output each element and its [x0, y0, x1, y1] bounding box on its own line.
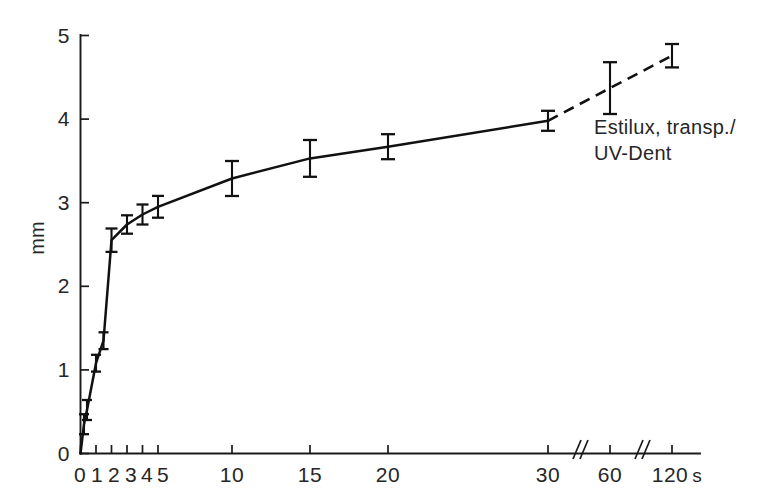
error-bar-1.5s — [99, 332, 109, 349]
x-tick-labels: 0 1 2 3 4 5 10 15 20 30 60 120 s — [74, 463, 702, 486]
y-tick-label-0: 0 — [58, 442, 70, 465]
series-annotation-line2: UV-Dent — [594, 142, 672, 164]
y-tick-label-1: 1 — [58, 358, 70, 381]
line-chart: 0 1 2 3 4 5 mm — [0, 0, 766, 504]
y-tick-label-4: 4 — [58, 107, 70, 130]
y-tick-labels: 0 1 2 3 4 5 — [58, 24, 70, 465]
axis-group — [81, 35, 701, 454]
x-tick-label-2: 2 — [108, 463, 120, 486]
error-bar-5s — [152, 196, 164, 218]
error-bar-3s — [121, 215, 133, 233]
x-tick-label-20: 20 — [376, 463, 400, 486]
axis-break-60-120 — [635, 440, 650, 459]
error-bar-60s — [603, 62, 617, 114]
x-tick-label-15: 15 — [298, 463, 322, 486]
x-tick-label-4: 4 — [141, 463, 153, 486]
y-tick-label-3: 3 — [58, 191, 70, 214]
y-axis-title: mm — [26, 221, 48, 254]
series-annotation-line1: Estilux, transp./ — [594, 116, 736, 138]
x-tick-label-120: 120 — [652, 463, 689, 486]
x-axis-unit-label: s — [692, 465, 702, 486]
error-bar-4s — [137, 205, 149, 225]
series-line-solid — [81, 121, 549, 454]
x-tick-label-60: 60 — [598, 463, 622, 486]
y-tick-label-2: 2 — [58, 274, 70, 297]
error-bar-1s — [91, 355, 101, 372]
x-tick-label-0: 0 — [74, 463, 86, 486]
axis-break-30-60 — [573, 440, 588, 459]
x-tick-label-5: 5 — [157, 463, 169, 486]
x-tick-label-10: 10 — [220, 463, 244, 486]
series-annotation: Estilux, transp./ UV-Dent — [594, 116, 736, 164]
figure-root: 0 1 2 3 4 5 mm — [0, 0, 766, 504]
error-bars-group — [79, 44, 679, 434]
x-tick-label-1: 1 — [91, 463, 103, 486]
axis-break-marks — [573, 440, 650, 459]
error-bar-120s — [665, 44, 679, 67]
y-tick-label-5: 5 — [58, 24, 70, 47]
x-tick-label-30: 30 — [536, 463, 560, 486]
y-tick-marks — [81, 36, 90, 454]
error-bar-2s — [106, 229, 118, 252]
x-tick-label-3: 3 — [125, 463, 137, 486]
